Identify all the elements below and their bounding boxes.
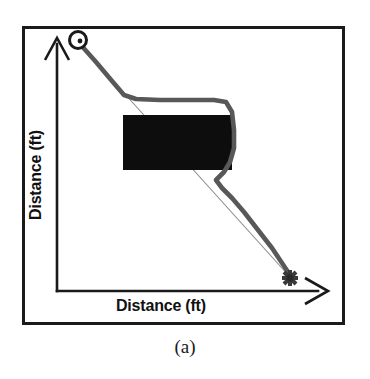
obstacle-rectangle bbox=[123, 115, 232, 170]
x-axis-label: Distance (ft) bbox=[116, 297, 206, 315]
start-point-marker bbox=[70, 32, 87, 49]
start-point-center-dot-icon bbox=[78, 39, 83, 44]
goal-star-core-icon bbox=[287, 275, 294, 282]
axis-group bbox=[45, 38, 328, 304]
goal-point-marker bbox=[282, 270, 298, 286]
figure-root: Distance (ft) Distance (ft) (a) bbox=[0, 0, 370, 379]
path-planning-diagram bbox=[0, 0, 370, 379]
y-axis-label: Distance (ft) bbox=[27, 115, 45, 235]
figure-caption: (a) bbox=[0, 336, 370, 358]
